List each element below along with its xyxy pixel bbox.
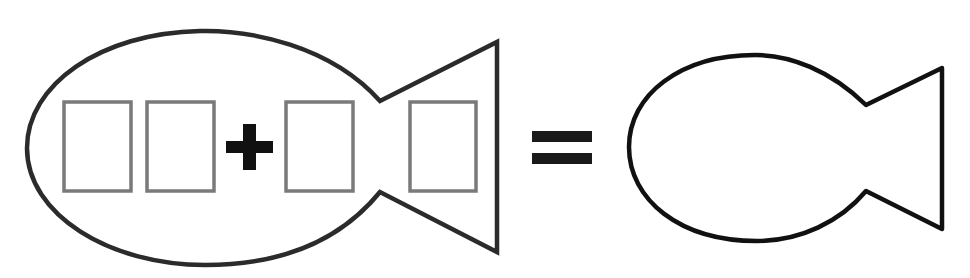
digit-box-1[interactable] xyxy=(64,102,131,191)
fish-math-puzzle: Fish addition puzzle: two-digit number p… xyxy=(0,0,970,278)
digit-box-3[interactable] xyxy=(286,102,353,191)
digit-box-4[interactable] xyxy=(410,102,476,191)
answer-fish-icon[interactable] xyxy=(629,55,942,241)
digit-box-2[interactable] xyxy=(147,102,214,191)
equals-icon xyxy=(532,131,592,164)
